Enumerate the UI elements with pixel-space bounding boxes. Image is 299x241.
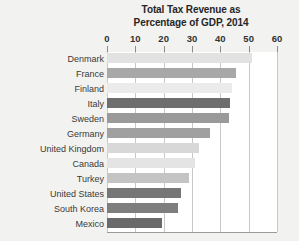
bar	[107, 68, 236, 78]
bar	[107, 143, 199, 153]
x-axis-line	[107, 232, 277, 233]
x-axis-tick-label: 40	[205, 33, 235, 44]
bar	[107, 173, 189, 183]
chart-title: Total Tax Revenue as Percentage of GDP, …	[96, 3, 286, 29]
category-label: South Korea	[0, 204, 104, 214]
category-label: United States	[0, 189, 104, 199]
gridline	[249, 52, 250, 232]
category-label: Sweden	[0, 114, 104, 124]
bar	[107, 53, 252, 63]
category-label: Germany	[0, 129, 104, 139]
plot-area	[107, 52, 277, 232]
category-label: Italy	[0, 99, 104, 109]
gridline	[192, 52, 193, 232]
x-axis-tick	[220, 46, 221, 52]
chart-title-line-1: Total Tax Revenue as	[96, 3, 286, 16]
category-label: France	[0, 69, 104, 79]
bar	[107, 128, 210, 138]
chart-figure: Total Tax Revenue as Percentage of GDP, …	[0, 0, 299, 241]
category-label: Turkey	[0, 174, 104, 184]
x-axis-tick-label: 0	[92, 33, 122, 44]
gridline	[220, 52, 221, 232]
x-axis-tick	[277, 46, 278, 52]
category-label: Canada	[0, 159, 104, 169]
x-axis-tick	[107, 46, 108, 52]
bar	[107, 218, 162, 228]
gridline	[277, 52, 278, 232]
x-axis-tick-label: 60	[262, 33, 292, 44]
x-axis-tick-label: 30	[177, 33, 207, 44]
category-label: Denmark	[0, 54, 104, 64]
y-axis-category-labels: DenmarkFranceFinlandItalySwedenGermanyUn…	[0, 52, 104, 232]
x-axis-tick	[164, 46, 165, 52]
chart-title-line-2: Percentage of GDP, 2014	[96, 16, 286, 29]
x-axis-tick-label: 20	[149, 33, 179, 44]
category-label: Finland	[0, 84, 104, 94]
bar	[107, 188, 181, 198]
bar	[107, 158, 195, 168]
bar	[107, 113, 229, 123]
bar	[107, 98, 230, 108]
bar	[107, 203, 178, 213]
x-axis-tick-label: 10	[120, 33, 150, 44]
x-axis-tick	[135, 46, 136, 52]
bar	[107, 83, 232, 93]
x-axis-tick-label: 50	[234, 33, 264, 44]
x-axis-tick	[249, 46, 250, 52]
category-label: Mexico	[0, 219, 104, 229]
category-label: United Kingdom	[0, 144, 104, 154]
x-axis-tick	[192, 46, 193, 52]
